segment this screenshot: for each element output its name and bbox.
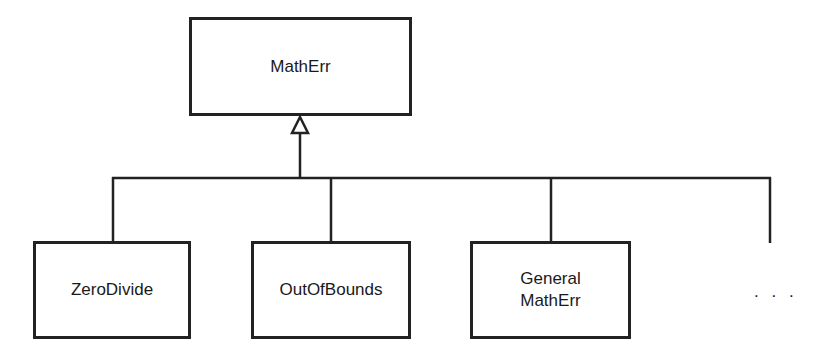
- inheritance-arrow-icon: [292, 117, 308, 133]
- more-classes-ellipsis: . . .: [754, 282, 798, 302]
- class-box-outofbounds: OutOfBounds: [251, 241, 411, 339]
- class-box-zerodivide: ZeroDivide: [33, 241, 191, 339]
- class-label: General MathErr: [520, 268, 580, 312]
- class-label: ZeroDivide: [71, 279, 153, 301]
- class-box-matherr: MathErr: [189, 17, 412, 116]
- class-label: MathErr: [270, 56, 330, 78]
- class-label: OutOfBounds: [279, 279, 382, 301]
- class-box-generalmatherr: General MathErr: [470, 241, 631, 339]
